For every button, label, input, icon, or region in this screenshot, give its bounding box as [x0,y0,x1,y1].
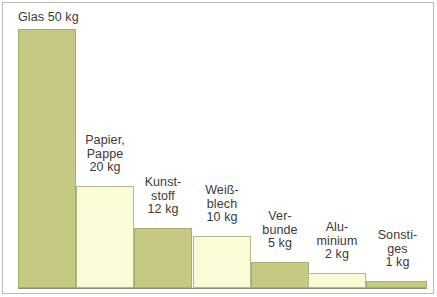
bar-label-sonstiges: Sonsti- ges 1 kg [368,229,427,270]
bar-sonstiges [366,281,427,288]
bar-chart-figure: Glas 50 kg Papier, Pappe 20 kg Kunst- st… [0,0,437,297]
bar-kunststoff [134,228,192,288]
bar-glas [18,29,76,288]
bar-label-glas: Glas 50 kg [18,11,98,25]
plot-area: Glas 50 kg Papier, Pappe 20 kg Kunst- st… [0,0,437,297]
bar-label-verbunde: Ver- bunde 5 kg [251,210,309,251]
bar-verbunde [251,262,309,288]
bar-label-weissblech: Weiß- blech 10 kg [193,184,251,225]
bar-label-aluminium: Alu- minium 2 kg [308,221,366,262]
bar-label-papier: Papier, Pappe 20 kg [76,134,134,175]
baseline-axis [18,288,427,289]
bar-aluminium [308,273,366,288]
bar-papier [76,186,134,288]
bar-weissblech [193,236,251,288]
bar-label-kunststoff: Kunst- stoff 12 kg [134,176,192,217]
